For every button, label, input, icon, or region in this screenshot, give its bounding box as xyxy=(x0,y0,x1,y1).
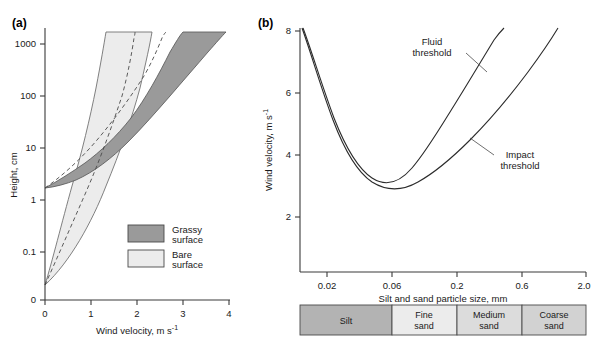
annotation-fluid-line1: Fluid xyxy=(422,36,443,47)
annotation-fluid-line2: threshold xyxy=(412,47,451,58)
curve-fluid-threshold xyxy=(303,28,504,183)
panel-b-ytick-8: 8 xyxy=(286,25,291,36)
panel-a-x-ticks xyxy=(45,300,229,305)
panel-b-ytick-2: 2 xyxy=(286,211,291,222)
class-label-medium-line1: Medium xyxy=(473,310,505,320)
panel-b-xtick-002: 0.02 xyxy=(318,280,337,291)
panel-a-xtick-1: 1 xyxy=(88,308,93,319)
class-label-silt: Silt xyxy=(340,316,353,326)
panel-a-xtick-3: 3 xyxy=(180,308,185,319)
annotation-impact-line1: Impact xyxy=(506,149,535,160)
panel-b-y-ticks xyxy=(295,31,300,217)
panel-a-ytick-10: 10 xyxy=(25,142,36,153)
panel-a: 1000 100 10 1 0.1 0 0 1 2 3 4 Wind veloc… xyxy=(8,28,232,336)
panel-b-xtick-20: 2.0 xyxy=(577,280,590,291)
panel-a-ytick-1000: 1000 xyxy=(15,38,36,49)
legend-swatch-bare xyxy=(128,250,164,267)
panel-a-ytick-1: 1 xyxy=(31,194,36,205)
class-label-fine-line2: sand xyxy=(414,321,434,331)
panel-b-ytick-6: 6 xyxy=(286,87,291,98)
panel-b-x-axis-title: Silt and sand particle size, mm xyxy=(379,293,508,304)
figure-container: (a) (b) 1000 100 xyxy=(0,0,603,346)
sediment-classification-bar: Silt Fine sand Medium sand Coarse sand xyxy=(300,305,586,335)
panel-b-x-ticks xyxy=(327,272,586,277)
panel-a-ytick-0: 0 xyxy=(31,294,36,305)
panel-a-xtick-4: 4 xyxy=(226,308,231,319)
panel-b-ytick-4: 4 xyxy=(286,149,291,160)
class-label-fine-line1: Fine xyxy=(415,310,433,320)
panel-b: 8 6 4 2 0.02 0.06 0.2 0.6 2.0 Silt and s… xyxy=(262,25,591,335)
panel-a-xtick-2: 2 xyxy=(134,308,139,319)
class-label-coarse-line1: Coarse xyxy=(539,310,568,320)
panel-a-ytick-100: 100 xyxy=(20,90,36,101)
annotation-impact-line2: threshold xyxy=(500,160,539,171)
legend-label-grassy-line2: surface xyxy=(172,234,203,245)
panel-b-xtick-06: 0.6 xyxy=(515,280,528,291)
figure-svg: 1000 100 10 1 0.1 0 0 1 2 3 4 Wind veloc… xyxy=(0,0,603,346)
panel-a-y-axis-title: Height, cm xyxy=(8,152,19,197)
class-label-medium-line2: sand xyxy=(479,321,499,331)
class-label-coarse-line2: sand xyxy=(544,321,564,331)
panel-b-xtick-006: 0.06 xyxy=(383,280,402,291)
panel-a-y-ticks xyxy=(40,44,45,300)
panel-a-xtick-0: 0 xyxy=(42,308,47,319)
leader-line-impact xyxy=(470,138,494,155)
panel-a-x-axis-title: Wind velocity, m s-1 xyxy=(96,324,178,336)
panel-b-y-axis-title: Wind velocity, m s-1 xyxy=(262,109,274,191)
legend-label-bare-line2: surface xyxy=(172,259,203,270)
legend-swatch-grassy xyxy=(128,225,164,242)
panel-b-xtick-02: 0.2 xyxy=(450,280,463,291)
panel-a-ytick-0-1: 0.1 xyxy=(23,246,36,257)
panel-a-legend: Grassy surface Bare surface xyxy=(128,224,203,270)
